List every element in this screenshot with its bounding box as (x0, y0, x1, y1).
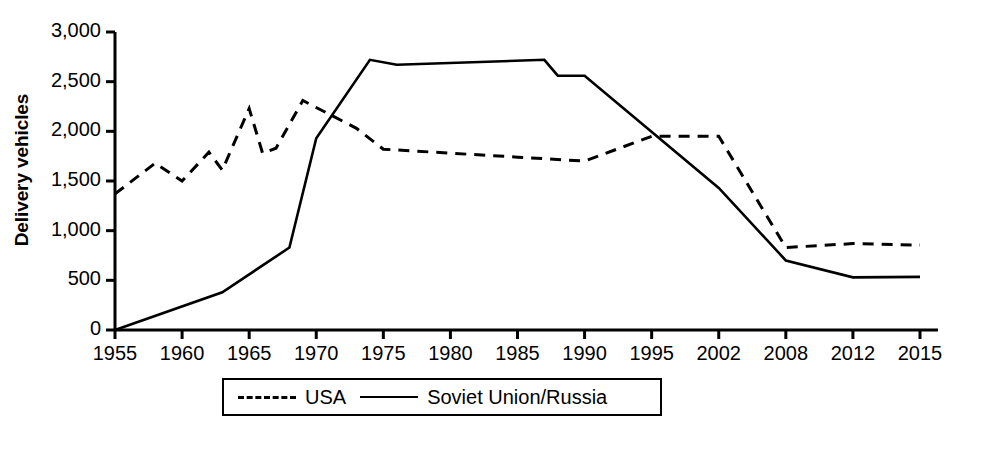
series-line-soviet-union-russia (115, 60, 920, 330)
legend-label: USA (305, 386, 346, 409)
data-series (115, 60, 920, 330)
chart-figure: Delivery vehicles 05001,0001,5002,0002,5… (0, 0, 981, 449)
y-tick-label: 1,500 (31, 168, 101, 191)
legend-swatch-solid (360, 396, 418, 398)
x-tick-label: 2015 (880, 342, 960, 365)
y-tick-label: 500 (31, 267, 101, 290)
legend-entry: Soviet Union/Russia (360, 386, 607, 409)
chart-legend: USASoviet Union/Russia (222, 378, 662, 416)
y-tick-label: 1,000 (31, 218, 101, 241)
legend-entry: USA (238, 386, 346, 409)
y-tick-label: 0 (31, 317, 101, 340)
y-tick-label: 2,500 (31, 69, 101, 92)
y-tick-label: 3,000 (31, 19, 101, 42)
y-tick-label: 2,000 (31, 118, 101, 141)
legend-swatch-dashed (238, 396, 296, 399)
legend-label: Soviet Union/Russia (427, 386, 607, 409)
axes (106, 32, 938, 339)
series-line-usa (115, 101, 920, 248)
